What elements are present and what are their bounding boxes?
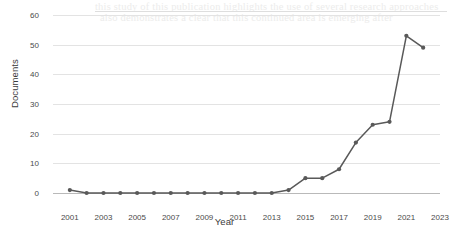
y-axis-tick-label: 50 — [11, 40, 39, 49]
data-point-marker — [253, 191, 257, 195]
y-axis-tick-label: 10 — [11, 159, 39, 168]
y-axis-tick-label: 30 — [11, 100, 39, 109]
data-point-marker — [202, 191, 206, 195]
data-point-marker — [387, 120, 391, 124]
data-point-marker — [421, 46, 425, 50]
plot-area: 0102030405060 20012003200520072009201120… — [53, 15, 440, 193]
data-point-marker — [286, 188, 290, 192]
x-axis-tick-label: 2023 — [420, 213, 454, 222]
series-polyline — [70, 36, 423, 193]
data-point-marker — [371, 123, 375, 127]
data-point-marker — [354, 140, 358, 144]
data-point-marker — [68, 188, 72, 192]
data-point-marker — [85, 191, 89, 195]
y-axis-tick-label: 60 — [11, 11, 39, 20]
data-point-marker — [118, 191, 122, 195]
y-axis-tick-label: 20 — [11, 129, 39, 138]
data-point-marker — [101, 191, 105, 195]
y-axis-tick-label: 0 — [11, 189, 39, 198]
data-point-marker — [236, 191, 240, 195]
y-axis-tick-label: 40 — [11, 70, 39, 79]
y-axis-title: Documents — [9, 44, 20, 124]
data-point-marker — [219, 191, 223, 195]
data-point-marker — [337, 167, 341, 171]
data-point-marker — [152, 191, 156, 195]
bleed-through-rule — [95, 11, 447, 12]
data-point-marker — [135, 191, 139, 195]
series-line-documents — [53, 15, 440, 193]
data-point-marker — [320, 176, 324, 180]
data-point-marker — [186, 191, 190, 195]
data-point-marker — [270, 191, 274, 195]
data-point-marker — [169, 191, 173, 195]
data-point-marker — [404, 34, 408, 38]
data-point-marker — [303, 176, 307, 180]
